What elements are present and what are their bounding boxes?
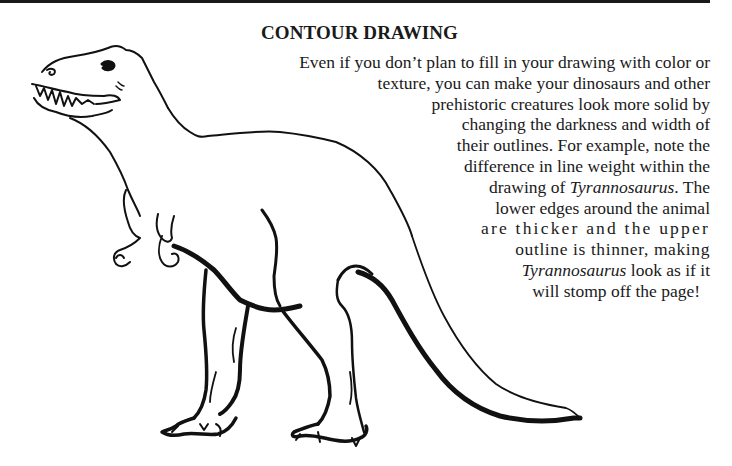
nostril [47,69,55,75]
paragraph-line: lower edges around the animal [250,198,710,219]
line-text: are thicker and the upper [481,218,710,238]
near-leg-crease [210,328,236,402]
line-text: difference in line weight within the [464,156,710,176]
paragraph-line: prehistoric creatures look more solid by [250,94,710,115]
far-leg-front [282,310,330,424]
neck-front [70,118,140,216]
lower-jaw [34,98,112,117]
paragraph-line: outline is thinner, making [250,239,710,260]
line-text: texture, you can make your dinosaurs and… [378,73,710,93]
front-arm-near-claw [116,255,124,258]
line-text: . The [674,177,710,197]
paragraph-line: are thicker and the upper [250,218,710,239]
paragraph-line: drawing of Tyrannosaurus. The [250,177,710,198]
species-name: Tyrannosaurus [570,177,675,197]
paragraph-line: changing the darkness and width of [250,114,710,135]
paragraph-line: texture, you can make your dinosaurs and… [250,73,710,94]
near-foot [162,418,236,435]
near-leg-front [194,270,207,418]
line-text: Even if you don’t plan to fill in your d… [299,52,710,72]
far-foot [292,424,366,441]
line-text: lower edges around the animal [495,198,710,218]
far-leg-crease [350,372,352,404]
paragraph-line: their outlines. For example, note the [250,135,710,156]
paragraph-line: difference in line weight within the [250,156,710,177]
species-name: Tyrannosaurus [522,260,627,280]
far-leg-back [337,280,364,432]
line-text: drawing of [489,177,570,197]
line-text: prehistoric creatures look more solid by [432,94,710,114]
line-text: look as if it [626,260,710,280]
eye [102,62,114,70]
paragraph-line: will stomp off the page! [250,281,710,302]
section-heading: CONTOUR DRAWING [261,22,458,44]
line-text: outline is thinner, making [515,239,710,259]
front-arm-far [157,214,179,267]
line-text: changing the darkness and width of [462,114,710,134]
paragraph-line: Even if you don’t plan to fill in your d… [250,52,710,73]
paragraph-line: Tyrannosaurus look as if it [250,260,710,281]
jaw-cheek [116,82,124,90]
section-paragraph: Even if you don’t plan to fill in your d… [250,52,710,302]
line-text: will stomp off the page! [532,281,700,301]
line-text: their outlines. For example, note the [457,135,710,155]
